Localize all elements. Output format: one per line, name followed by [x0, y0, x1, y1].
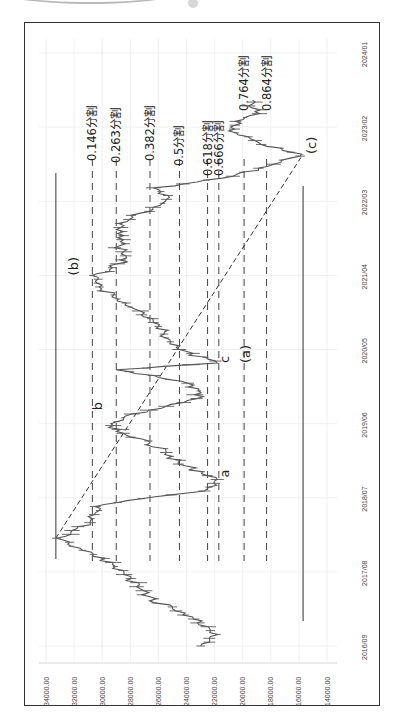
- x-tick-label: 2016/09: [361, 635, 368, 660]
- wave-label: a: [217, 470, 232, 478]
- y-tick-label: 22000.00: [211, 677, 218, 706]
- fib-level-label: 0.764分割: [237, 56, 251, 111]
- y-tick-label: 28000.00: [127, 677, 134, 706]
- fib-level-label: 0.263分割: [109, 108, 123, 163]
- y-tick-label: 26000.00: [155, 677, 162, 706]
- wave-label: (b): [66, 257, 81, 275]
- x-tick-label: 2020/05: [361, 338, 368, 363]
- wave-label: (a): [238, 345, 253, 363]
- x-tick-label: 2024/01: [361, 42, 368, 67]
- chart-frame: 14000.0016000.0018000.0020000.0022000.00…: [24, 22, 380, 706]
- y-tick-label: 32000.00: [71, 677, 78, 706]
- x-tick-label: 2017/08: [361, 560, 368, 585]
- page-curl-decoration: [0, 0, 190, 4]
- price-chart: 14000.0016000.0018000.0020000.0022000.00…: [25, 23, 381, 707]
- wave-label: c: [217, 356, 232, 363]
- y-tick-label: 34000.00: [43, 677, 50, 706]
- price-line: [56, 100, 301, 646]
- wave-label: b: [90, 402, 105, 410]
- fib-level-label: 0.666分割: [212, 121, 226, 176]
- x-tick-label: 2022/03: [361, 190, 368, 215]
- fib-level-label: 0.146分割: [85, 106, 99, 161]
- x-tick-label: 2023/02: [361, 116, 368, 141]
- x-tick-label: 2019/06: [361, 412, 368, 437]
- y-tick-label: 16000.00: [295, 677, 302, 706]
- y-tick-label: 18000.00: [267, 677, 274, 706]
- y-tick-label: 24000.00: [183, 677, 190, 706]
- y-tick-label: 30000.00: [99, 677, 106, 706]
- decorative-dot: [188, 0, 198, 8]
- fib-level-label: 0.864分割: [260, 56, 274, 111]
- wave-label: (c): [304, 137, 319, 154]
- fib-level-label: 0.382分割: [143, 106, 157, 161]
- fib-level-label: 0.5分割: [172, 126, 186, 166]
- x-tick-label: 2021/04: [361, 264, 368, 289]
- y-tick-label: 20000.00: [239, 677, 246, 706]
- x-tick-label: 2018/07: [361, 486, 368, 511]
- y-tick-label: 14000.00: [324, 677, 331, 706]
